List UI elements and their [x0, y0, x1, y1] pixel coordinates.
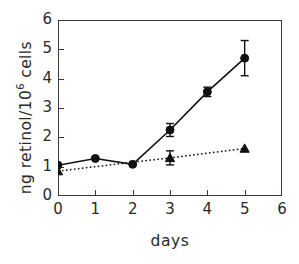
data-point-circle [129, 160, 137, 168]
x-tick-label: 0 [43, 202, 73, 217]
x-axis-title: days [58, 232, 282, 250]
data-point-circle [166, 126, 174, 134]
x-tick-label: 5 [230, 202, 260, 217]
series-line-circles [58, 58, 245, 165]
y-axis-title-exponent: 6 [15, 83, 26, 90]
series-circles [58, 41, 249, 170]
y-axis-title-prefix: ng retinol/10 [17, 90, 35, 194]
data-point-triangle [240, 144, 249, 152]
x-tick-label: 6 [267, 202, 297, 217]
data-point-circle [203, 88, 211, 96]
x-tick-label: 2 [118, 202, 148, 217]
data-series-svg [58, 20, 282, 196]
y-axis-title: ng retinol/106 cells [15, 23, 34, 213]
x-tick-label: 1 [80, 202, 110, 217]
x-tick-label: 4 [192, 202, 222, 217]
data-point-circle [241, 54, 249, 62]
chart-figure: 0123456 0123456 ng retinol/106 cells day… [0, 0, 299, 264]
data-point-circle [91, 154, 99, 162]
y-axis-title-suffix: cells [17, 41, 35, 83]
plot-area [58, 20, 282, 196]
x-tick-label: 3 [155, 202, 185, 217]
